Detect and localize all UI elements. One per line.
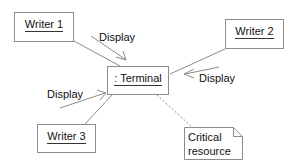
node-writer-2[interactable]: Writer 2 xyxy=(225,19,284,49)
node-writer-2-label: Writer 2 xyxy=(226,25,283,37)
link-writer2-terminal xyxy=(170,49,225,74)
node-writer-1-label: Writer 1 xyxy=(15,18,73,30)
link-writer3-terminal xyxy=(85,95,112,124)
link-terminal-critical-resource xyxy=(157,95,192,127)
edge-label-display-writer1: Display xyxy=(99,31,135,43)
uml-communication-diagram: Writer 1 Writer 2 : Terminal Writer 3 Cr… xyxy=(0,0,293,165)
link-writer1-terminal xyxy=(74,41,120,66)
edge-label-display-writer3: Display xyxy=(47,88,83,100)
note-critical-resource[interactable]: Critical resource xyxy=(184,127,243,160)
node-terminal[interactable]: : Terminal xyxy=(107,66,169,95)
note-line-1: Critical xyxy=(188,130,231,144)
note-critical-resource-text: Critical resource xyxy=(188,130,231,158)
edge-label-display-writer2: Display xyxy=(199,72,235,84)
node-writer-3-label: Writer 3 xyxy=(38,130,95,142)
node-writer-1[interactable]: Writer 1 xyxy=(14,12,74,42)
node-terminal-label: : Terminal xyxy=(108,72,168,84)
node-writer-3[interactable]: Writer 3 xyxy=(37,124,96,153)
note-line-2: resource xyxy=(188,144,231,158)
